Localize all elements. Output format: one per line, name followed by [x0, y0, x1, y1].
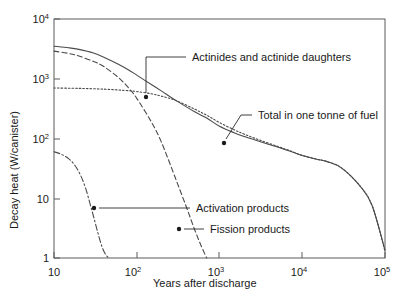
annotation-group: Actinides and actinide daughtersTotal in… [92, 51, 378, 235]
x-tick-label-10000: 104 [291, 265, 307, 278]
annotation-label-fission: Fission products [210, 223, 291, 235]
x-axis-title: Years after discharge [153, 277, 257, 289]
series-line-activation-products [54, 152, 109, 258]
annotation-arrowhead-activation [92, 206, 96, 210]
series-line-fission-products [54, 51, 207, 258]
y-tick-label-1000: 103 [33, 72, 49, 85]
y-axis-ticks [54, 19, 60, 258]
annotation-label-activation: Activation products [196, 202, 289, 214]
annotation-arrowhead-actinides [144, 95, 148, 99]
annotation-arrowhead-total [222, 141, 226, 145]
x-axis-ticks [54, 252, 385, 258]
y-tick-label-1: 1 [43, 252, 49, 264]
annotation-arrowhead-fission [177, 227, 181, 231]
annotation-label-total: Total in one tonne of fuel [258, 109, 378, 121]
x-tick-label-100: 102 [125, 265, 141, 278]
y-axis-title: Decay heat (W/canister) [8, 111, 20, 229]
y-tick-label-10: 10 [37, 193, 49, 205]
y-tick-label-100: 102 [33, 132, 49, 145]
annotation-leader-actinides [146, 57, 186, 93]
series-line-total-in-one-tonne-of-fuel [54, 46, 385, 250]
annotation-label-actinides: Actinides and actinide daughters [192, 51, 351, 63]
y-axis-tick-labels: 104 103 102 10 1 [33, 12, 49, 264]
x-tick-label-100000: 105 [374, 265, 390, 278]
decay-heat-chart: 104 103 102 10 1 10 102 103 104 10 [0, 0, 407, 308]
decay-heat-figure: 104 103 102 10 1 10 102 103 104 10 [0, 0, 407, 308]
x-tick-label-10: 10 [48, 266, 60, 278]
y-tick-label-10000: 104 [33, 12, 49, 25]
